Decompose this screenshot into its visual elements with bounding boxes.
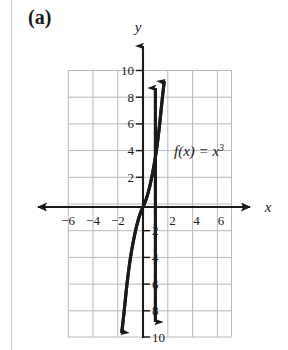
y-tick-label: 6 xyxy=(128,116,135,131)
function-label-text: f(x) = x xyxy=(174,143,219,160)
grid-lines xyxy=(68,70,231,337)
y-tick-label: 8 xyxy=(128,90,135,105)
x-tick-label: −4 xyxy=(86,213,100,228)
x-tick-label: −2 xyxy=(111,213,125,228)
y-tick-label: 2 xyxy=(128,170,135,185)
x-axis-label: x xyxy=(264,199,272,215)
function-label-exponent: 3 xyxy=(218,142,224,153)
function-label: f(x) = x3 xyxy=(174,142,224,160)
x-tick-label: 6 xyxy=(218,213,225,228)
y-axis-label: y xyxy=(133,19,142,35)
y-tick-label: 10 xyxy=(152,330,165,345)
y-tick-label: 4 xyxy=(128,143,135,158)
figure-panel: (a) xyxy=(0,0,288,350)
x-tick-label: 2 xyxy=(169,213,176,228)
axes xyxy=(38,46,250,338)
x-tick-label: −6 xyxy=(61,213,75,228)
y-tick-label: 10 xyxy=(121,63,134,78)
x-tick-label: 4 xyxy=(193,213,200,228)
cubic-function-graph: y x −6 −4 −2 2 4 6 10 8 6 4 2 2 4 6 8 10 xyxy=(0,0,288,350)
